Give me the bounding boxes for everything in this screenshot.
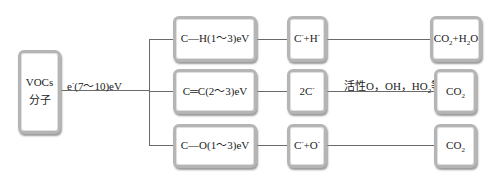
branch-connector-middle bbox=[149, 91, 173, 92]
vocs-molecule-box: VOCs 分子 bbox=[18, 50, 61, 134]
bond-to-fragment-connector-top bbox=[257, 39, 287, 40]
branch-vertical-connector bbox=[149, 39, 150, 145]
product-box-co2-bottom: CO2 bbox=[434, 124, 477, 168]
electron-energy-label: e-(7～10)eV bbox=[67, 77, 122, 93]
branch-connector-top bbox=[149, 39, 173, 40]
fragment-box-c-h: C-+H- bbox=[287, 16, 327, 62]
vocs-label: VOCs bbox=[26, 74, 54, 92]
bond-box-c-h: C—H(1～3)eV bbox=[173, 16, 257, 62]
bond-box-c-c: C═C(2～3)eV bbox=[173, 69, 257, 114]
fragment-box-2c: 2C- bbox=[287, 69, 327, 114]
fragment-to-product-connector-bottom bbox=[327, 145, 434, 146]
bond-box-c-o: C—O(1～3)eV bbox=[173, 124, 257, 168]
active-species-label: 活性O，OH，HO2等 bbox=[344, 77, 442, 93]
bond-to-fragment-connector-bottom bbox=[257, 145, 287, 146]
molecule-label: 分子 bbox=[29, 92, 51, 110]
fragment-to-product-connector-top bbox=[327, 39, 430, 40]
product-box-co2-h2o: CO2+H2O bbox=[430, 16, 482, 62]
product-box-co2-middle: CO2 bbox=[434, 69, 477, 114]
bond-to-fragment-connector-middle bbox=[257, 91, 287, 92]
branch-connector-bottom bbox=[149, 145, 173, 146]
fragment-box-c-o: C-+O- bbox=[287, 124, 327, 168]
